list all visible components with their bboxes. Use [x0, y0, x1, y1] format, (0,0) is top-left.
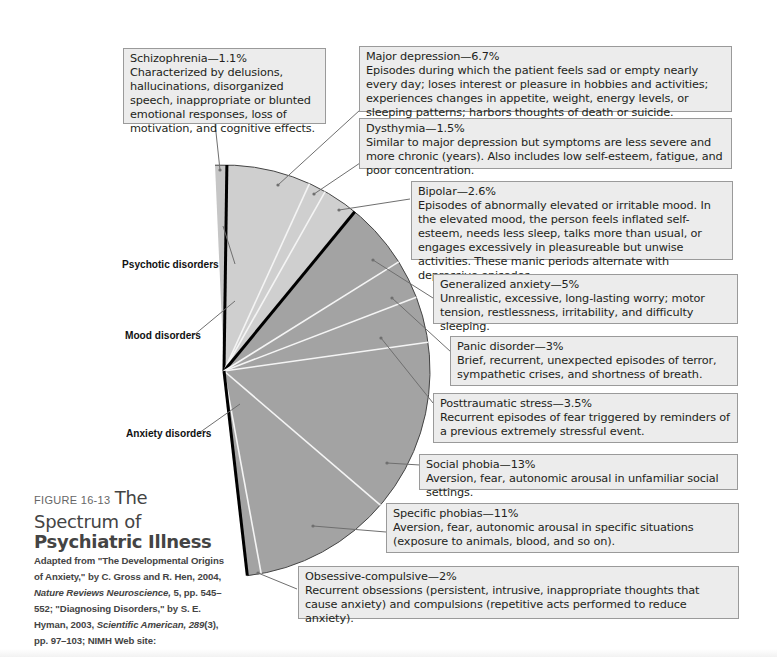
callout-bipolar: Bipolar—2.6% Episodes of abnormally elev…: [411, 181, 733, 260]
figure-title-line2: Psychiatric Illness: [34, 531, 212, 552]
callout-title: Social phobia—13%: [426, 458, 731, 472]
callout-title: Specific phobias—11%: [393, 507, 732, 521]
callout-description: Aversion, fear, autonomic arousal in spe…: [393, 521, 732, 549]
callout-title: Obsessive-compulsive—2%: [305, 570, 732, 584]
callout-description: Characterized by delusions, hallucinatio…: [130, 66, 319, 136]
callout-obsessive-compulsive: Obsessive-compulsive—2% Recurrent obsess…: [298, 566, 739, 619]
callout-description: Recurrent obsessions (persistent, intrus…: [305, 584, 732, 626]
callout-description: Episodes of abnormally elevated or irrit…: [418, 199, 726, 283]
callout-dysthymia: Dysthymia—1.5% Similar to major depressi…: [359, 118, 732, 169]
callout-social-phobia: Social phobia—13% Aversion, fear, autono…: [419, 454, 738, 490]
callout-title: Posttraumatic stress—3.5%: [440, 397, 731, 411]
callout-generalized-anxiety: Generalized anxiety—5% Unrealistic, exce…: [433, 274, 738, 324]
group-label-psychotic: Psychotic disorders: [122, 258, 219, 270]
callout-major-depression: Major depression—6.7% Episodes during wh…: [359, 46, 732, 112]
callout-description: Similar to major depression but symptoms…: [366, 136, 725, 178]
group-label-mood: Mood disorders: [125, 329, 201, 341]
source-lead: Adapted from "The Developmental Origins …: [34, 555, 224, 582]
callout-title: Schizophrenia—1.1%: [130, 52, 319, 66]
callout-title: Generalized anxiety—5%: [440, 278, 731, 292]
callout-title: Bipolar—2.6%: [418, 185, 726, 199]
group-label-anxiety: Anxiety disorders: [126, 427, 211, 439]
callout-description: Unrealistic, excessive, long-lasting wor…: [440, 292, 731, 334]
callout-panic-disorder: Panic disorder—3% Brief, recurrent, unex…: [450, 336, 738, 386]
callout-title: Major depression—6.7%: [366, 50, 725, 64]
callout-description: Recurrent episodes of fear triggered by …: [440, 411, 731, 439]
callout-posttraumatic-stress: Posttraumatic stress—3.5% Recurrent epis…: [433, 393, 738, 443]
callout-description: Episodes during which the patient feels …: [366, 64, 725, 120]
page-edge-shade: [0, 649, 777, 657]
figure-caption: FIGURE 16-13 The Spectrum of Psychiatric…: [34, 487, 234, 657]
callout-title: Dysthymia—1.5%: [366, 122, 725, 136]
callout-schizophrenia: Schizophrenia—1.1% Characterized by delu…: [123, 48, 326, 124]
callout-title: Panic disorder—3%: [457, 340, 731, 354]
callout-description: Aversion, fear, autonomic arousal in unf…: [426, 472, 731, 500]
callout-specific-phobias: Specific phobias—11% Aversion, fear, aut…: [386, 503, 739, 553]
callout-description: Brief, recurrent, unexpected episodes of…: [457, 354, 731, 382]
source-journal-2: Scientific American, 289: [97, 619, 205, 630]
source-journal-1: Nature Reviews Neuroscience,: [34, 587, 171, 598]
figure-number: FIGURE 16-13: [34, 494, 110, 506]
